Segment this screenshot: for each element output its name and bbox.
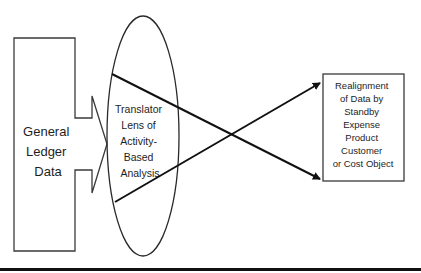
diagram-canvas: General Ledger Data Translator Lens of A… [0, 0, 421, 273]
translator-lens-label: Translator Lens of Activity- Based Analy… [115, 103, 165, 179]
bottom-rule [0, 268, 421, 271]
